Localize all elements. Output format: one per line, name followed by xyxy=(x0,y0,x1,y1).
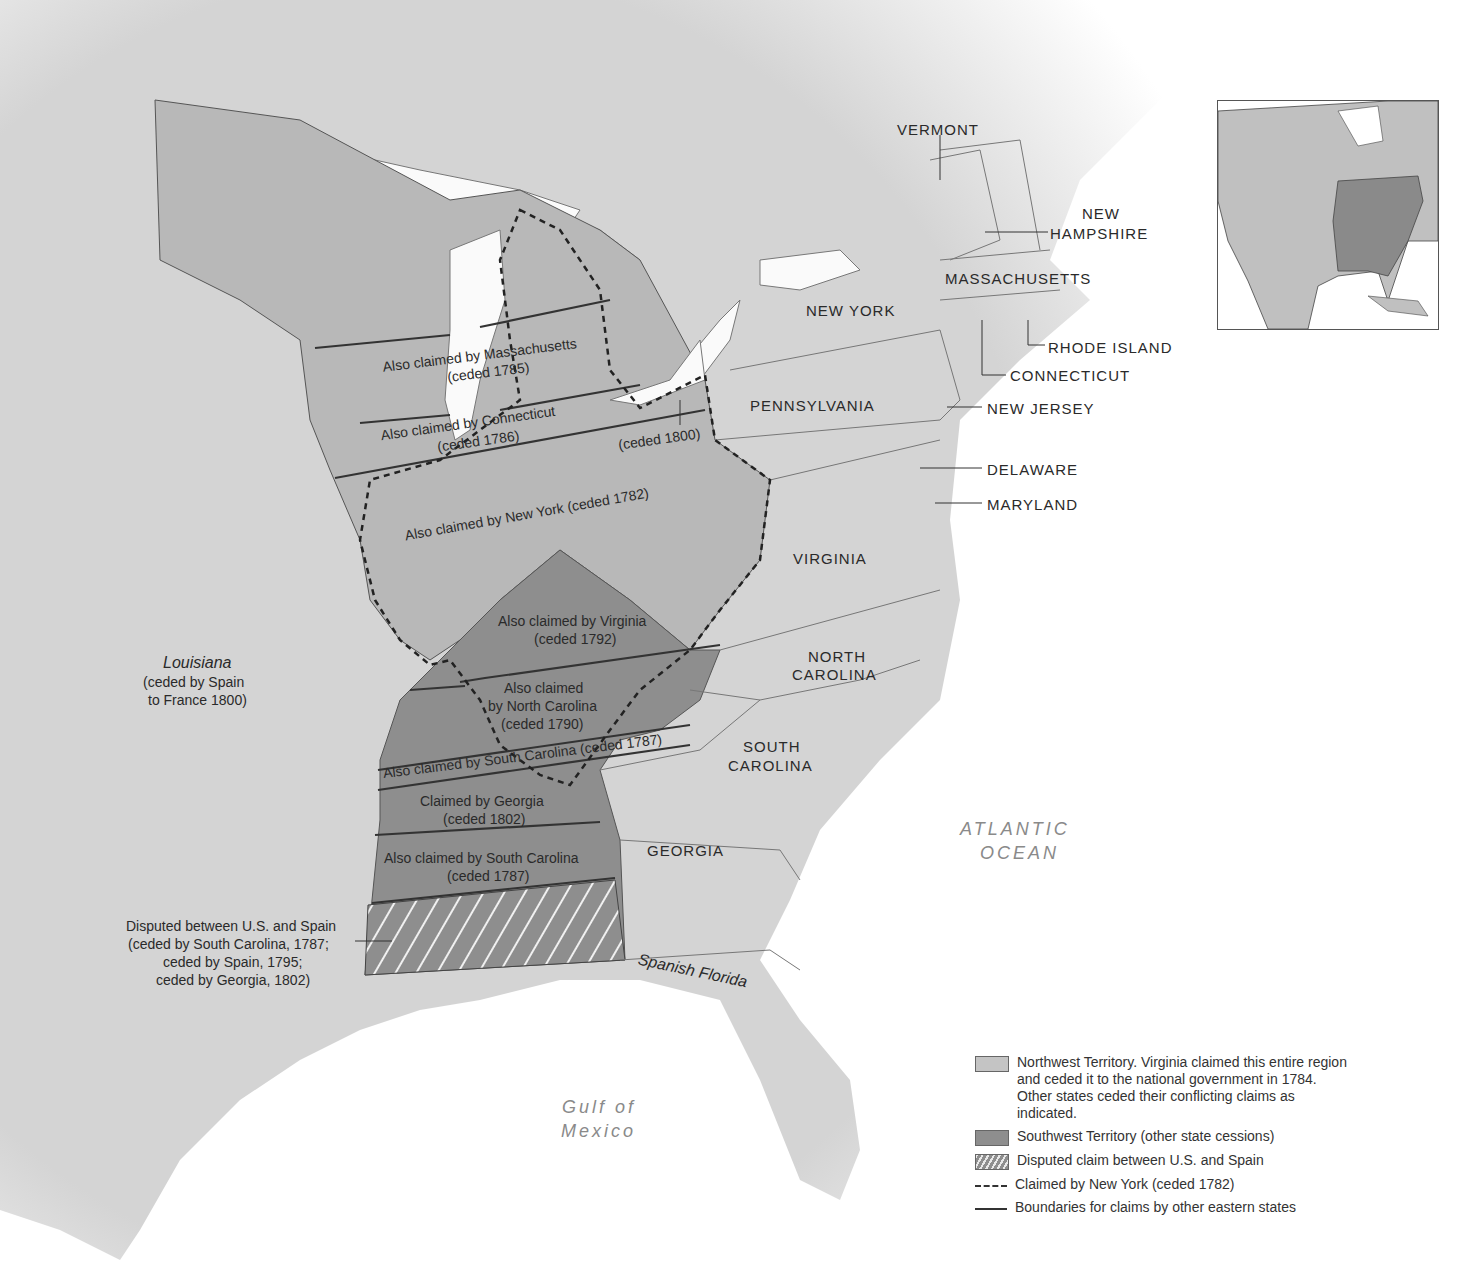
claim-south-carolina2-line2: (ceded 1787) xyxy=(447,867,530,885)
inset-locator-map xyxy=(1217,100,1439,330)
label-louisiana-note1: (ceded by Spain xyxy=(143,673,244,691)
label-maryland: MARYLAND xyxy=(987,496,1078,514)
label-louisiana: Louisiana xyxy=(163,654,232,672)
label-louisiana-note2: to France 1800) xyxy=(148,691,247,709)
claim-north-carolina-line3: (ceded 1790) xyxy=(501,715,584,733)
label-north-carolina-line2: CAROLINA xyxy=(792,666,877,684)
label-new-hampshire-line2: HAMPSHIRE xyxy=(1050,225,1148,243)
claim-georgia-line1: Claimed by Georgia xyxy=(420,792,544,810)
label-north-carolina-line1: NORTH xyxy=(808,648,866,666)
northwest-territory-swatch-icon xyxy=(975,1056,1009,1072)
claim-virginia-line2: (ceded 1792) xyxy=(534,630,617,648)
legend-item-disputed: Disputed claim between U.S. and Spain xyxy=(975,1152,1355,1170)
legend-item-boundaries: Boundaries for claims by other eastern s… xyxy=(975,1199,1355,1216)
legend-label: Disputed claim between U.S. and Spain xyxy=(1017,1152,1264,1169)
legend-label: Boundaries for claims by other eastern s… xyxy=(1015,1199,1296,1216)
legend-label: Northwest Territory. Virginia claimed th… xyxy=(1017,1054,1347,1122)
label-massachusetts: MASSACHUSETTS xyxy=(945,270,1091,288)
legend-item-southwest: Southwest Territory (other state cession… xyxy=(975,1128,1355,1146)
southwest-territory-swatch-icon xyxy=(975,1130,1009,1146)
claim-north-carolina-line1: Also claimed xyxy=(504,679,583,697)
label-vermont: VERMONT xyxy=(897,121,979,139)
legend-item-northwest: Northwest Territory. Virginia claimed th… xyxy=(975,1054,1355,1122)
claim-disputed-line3: ceded by Spain, 1795; xyxy=(163,953,302,971)
label-atlantic-line1: ATLANTIC xyxy=(960,818,1070,840)
label-virginia: VIRGINIA xyxy=(793,550,867,568)
label-rhode-island: RHODE ISLAND xyxy=(1048,339,1173,357)
label-atlantic-line2: OCEAN xyxy=(980,842,1059,864)
claim-north-carolina-line2: by North Carolina xyxy=(488,697,597,715)
label-new-hampshire-line1: NEW xyxy=(1082,205,1120,223)
disputed-hatch-swatch-icon xyxy=(975,1154,1009,1170)
claim-georgia-line2: (ceded 1802) xyxy=(443,810,526,828)
label-gulf-line1: Gulf of xyxy=(562,1096,636,1118)
label-new-jersey: NEW JERSEY xyxy=(987,400,1095,418)
legend-label: Southwest Territory (other state cession… xyxy=(1017,1128,1274,1145)
label-delaware: DELAWARE xyxy=(987,461,1078,479)
legend-label: Claimed by New York (ceded 1782) xyxy=(1015,1176,1234,1193)
label-south-carolina-line1: SOUTH xyxy=(743,738,801,756)
legend-item-new-york-claim: Claimed by New York (ceded 1782) xyxy=(975,1176,1355,1193)
dashed-line-icon xyxy=(975,1178,1007,1192)
claim-disputed-line4: ceded by Georgia, 1802) xyxy=(156,971,310,989)
label-south-carolina-line2: CAROLINA xyxy=(728,757,813,775)
map-legend: Northwest Territory. Virginia claimed th… xyxy=(975,1054,1355,1222)
claim-south-carolina2-line1: Also claimed by South Carolina xyxy=(384,849,579,867)
label-pennsylvania: PENNSYLVANIA xyxy=(750,397,875,415)
label-new-york: NEW YORK xyxy=(806,302,895,320)
claim-virginia-line1: Also claimed by Virginia xyxy=(498,612,646,630)
claim-disputed-line1: Disputed between U.S. and Spain xyxy=(126,917,336,935)
solid-line-icon xyxy=(975,1201,1007,1215)
claim-disputed-line2: (ceded by South Carolina, 1787; xyxy=(128,935,329,953)
label-connecticut: CONNECTICUT xyxy=(1010,367,1130,385)
label-gulf-line2: Mexico xyxy=(561,1120,636,1142)
label-georgia: GEORGIA xyxy=(647,842,724,860)
